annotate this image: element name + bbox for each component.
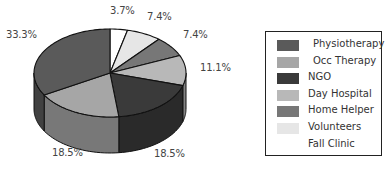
label-physiotherapy: 33.3% (6, 29, 37, 40)
legend-item-occ-therapy: Occ Therapy (266, 53, 381, 69)
pie-top (34, 29, 186, 117)
legend-label: Home Helper (308, 104, 374, 115)
legend-item-physiotherapy: Physiotherapy (266, 36, 381, 52)
legend-swatch (277, 40, 299, 51)
legend-item-ngo: NGO (266, 69, 381, 85)
label-fall-clinic: 3.7% (110, 5, 135, 16)
legend-label: Occ Therapy (313, 55, 376, 66)
legend-swatch (277, 106, 299, 117)
chart-legend: Physiotherapy Occ Therapy NGO Day Hospit… (265, 31, 382, 156)
legend-item-volunteers: Volunteers (266, 119, 381, 135)
label-ngo: 18.5% (154, 148, 185, 159)
label-day-hospital: 11.1% (200, 62, 231, 73)
label-volunteers: 7.4% (147, 11, 172, 22)
legend-label: Fall Clinic (308, 138, 355, 149)
legend-label: NGO (308, 71, 331, 82)
legend-swatch (277, 123, 299, 134)
legend-item-home-helper: Home Helper (266, 102, 381, 118)
legend-item-day-hospital: Day Hospital (266, 86, 381, 102)
legend-label: Physiotherapy (313, 38, 384, 49)
pie-chart (0, 0, 240, 169)
legend-swatch (277, 57, 299, 68)
legend-swatch (277, 90, 299, 101)
legend-label: Day Hospital (308, 88, 372, 99)
legend-swatch (277, 73, 299, 84)
legend-label: Volunteers (308, 121, 361, 132)
legend-swatch (277, 140, 299, 151)
legend-item-fall-clinic: Fall Clinic (266, 136, 381, 152)
label-home-helper: 7.4% (183, 29, 208, 40)
label-occ-therapy: 18.5% (52, 147, 83, 158)
